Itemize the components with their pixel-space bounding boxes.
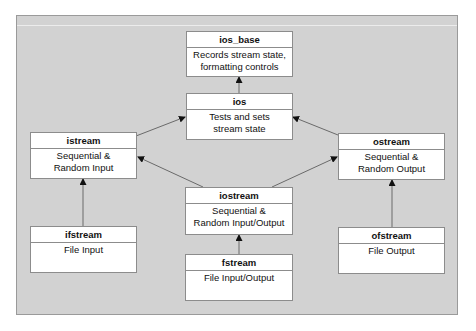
desc-line: Sequential & <box>31 150 136 162</box>
node-iostream: iostream Sequential & Random Input/Outpu… <box>185 187 293 235</box>
node-title: ostream <box>339 134 444 150</box>
node-description: Records stream state, formatting control… <box>187 48 292 73</box>
desc-line: Sequential & <box>339 151 444 163</box>
node-title: ifstream <box>31 227 136 243</box>
node-ostream: ostream Sequential & Random Output <box>338 133 445 180</box>
node-ifstream: ifstream File Input <box>30 226 137 273</box>
desc-line: formatting controls <box>187 61 292 73</box>
node-title: ofstream <box>339 228 444 244</box>
desc-line: File Input/Output <box>186 272 292 284</box>
desc-line: Sequential & <box>186 205 292 217</box>
node-title: fstream <box>186 255 292 271</box>
arrow-iostream-to-ostream <box>272 157 337 187</box>
node-description: Sequential & Random Input/Output <box>186 204 292 229</box>
desc-line: Tests and sets <box>187 111 292 123</box>
desc-line: Records stream state, <box>187 49 292 61</box>
desc-line: Random Input/Output <box>186 217 292 229</box>
desc-line: Random Output <box>339 163 444 175</box>
desc-line: File Output <box>339 245 444 257</box>
node-title: ios <box>187 94 292 110</box>
node-description: Sequential & Random Output <box>339 150 444 175</box>
node-ios: ios Tests and sets stream state <box>186 93 293 140</box>
node-description: Tests and sets stream state <box>187 110 292 135</box>
node-istream: istream Sequential & Random Input <box>30 132 137 179</box>
node-description: File Input/Output <box>186 271 292 284</box>
node-ofstream: ofstream File Output <box>338 227 445 274</box>
node-title: istream <box>31 133 136 149</box>
node-title: iostream <box>186 188 292 204</box>
arrow-iostream-to-istream <box>138 157 203 187</box>
arrow-istream-to-ios <box>136 117 185 136</box>
node-description: File Output <box>339 244 444 257</box>
arrow-ostream-to-ios <box>293 117 338 135</box>
desc-line: File Input <box>31 244 136 256</box>
desc-line: Random Input <box>31 162 136 174</box>
node-description: Sequential & Random Input <box>31 149 136 174</box>
node-title: ios_base <box>187 32 292 48</box>
node-fstream: fstream File Input/Output <box>185 254 293 301</box>
node-description: File Input <box>31 243 136 256</box>
desc-line: stream state <box>187 123 292 135</box>
node-ios_base: ios_base Records stream state, formattin… <box>186 31 293 77</box>
